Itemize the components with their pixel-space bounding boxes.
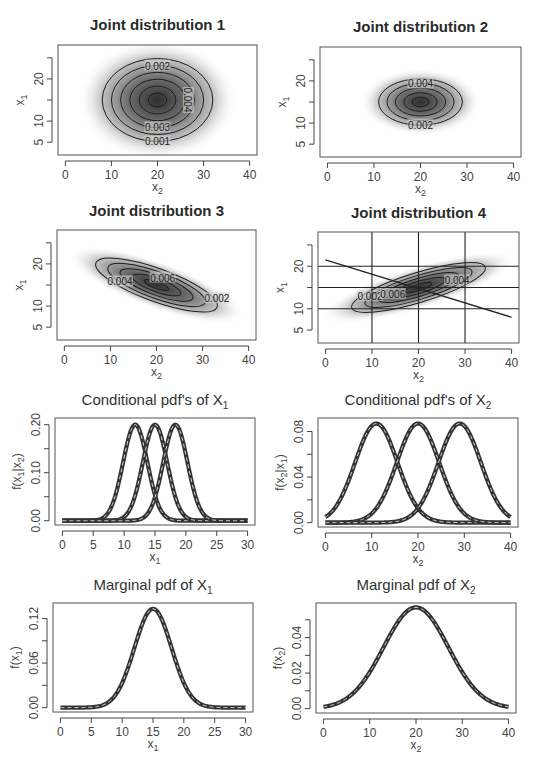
x-tick-label: 40 (502, 726, 516, 740)
y-axis-label: x1 (13, 94, 29, 105)
x-tick-label: 10 (365, 356, 379, 370)
x-tick-label: 0 (322, 540, 329, 554)
density-plot-6 (325, 424, 510, 523)
x-axis-label: x1 (147, 737, 158, 753)
x-tick-label: 5 (90, 538, 97, 552)
density-curve (62, 425, 247, 521)
y-tick-label: 20 (292, 259, 306, 273)
x-axis-label: x2 (415, 182, 426, 198)
x-tick-label: 30 (196, 353, 210, 367)
panel-title: Conditional pdf's of X1 (82, 391, 229, 411)
y-tick-label: 10 (32, 114, 46, 128)
y-axis-label: x1 (273, 282, 289, 293)
x-tick-label: 30 (456, 726, 470, 740)
y-tick-label: 0.20 (29, 413, 43, 437)
y-tick-label: 20 (32, 72, 46, 86)
density-curve (62, 425, 247, 521)
contour-label: 0.004 (408, 78, 433, 89)
x-tick-label: 0 (61, 353, 68, 367)
contour-label: 0.002 (204, 293, 229, 304)
joint-distribution-4: 0.0020.0060.004 (315, 232, 521, 343)
y-tick-label: 5 (32, 139, 46, 146)
x-tick-label: 20 (179, 538, 193, 552)
x-tick-label: 10 (104, 353, 118, 367)
x-axis-label: x2 (413, 368, 424, 384)
y-tick-label: 10 (294, 116, 308, 130)
density-curve (60, 609, 245, 708)
joint-distribution-3: 0.0020.0060.004 (60, 230, 252, 339)
x-tick-label: 30 (458, 540, 472, 554)
joint-distribution-2: 0.0040.002 (360, 68, 481, 135)
density-curve (62, 425, 247, 521)
x-tick-label: 0 (62, 168, 69, 182)
y-tick-label: 0.00 (29, 509, 43, 533)
x-tick-label: 30 (239, 725, 253, 739)
y-tick-label: 0.00 (27, 696, 41, 720)
contour-label: 0.003 (145, 122, 170, 133)
density-shading (60, 230, 252, 339)
x-tick-label: 20 (177, 725, 191, 739)
figure-canvas: 0.0020.0040.0030.00101020304051020Joint … (0, 0, 541, 765)
y-tick-label: 0.04 (292, 465, 306, 489)
density-curve-dashed (323, 607, 508, 706)
y-tick-label: 5 (292, 326, 306, 333)
density-curve-dashed (62, 425, 247, 521)
panel-7-axes: 0510152025300.000.060.12 (27, 603, 253, 739)
x-axis-label: x2 (151, 365, 162, 381)
y-tick-label: 0.00 (290, 697, 304, 721)
contour-label: 0.004 (445, 275, 470, 286)
panel-title: Marginal pdf of X1 (94, 576, 213, 596)
x-tick-label: 30 (458, 356, 472, 370)
contour-label: 0.006 (380, 289, 405, 300)
x-tick-label: 25 (208, 725, 222, 739)
y-tick-label: 0.00 (292, 511, 306, 535)
x-tick-label: 0 (59, 538, 66, 552)
density-curve (323, 607, 508, 706)
x-tick-label: 25 (210, 538, 224, 552)
density-curve-dashed (62, 425, 247, 521)
x-axis-label: x2 (152, 180, 163, 196)
y-tick-label: 0.10 (29, 461, 43, 485)
panel-title: Joint distribution 2 (353, 18, 488, 35)
y-tick-label: 5 (294, 141, 308, 148)
y-tick-label: 0.08 (292, 419, 306, 443)
plot-frame (53, 603, 253, 712)
x-axis-label: x1 (149, 550, 160, 566)
y-axis-label: f(x1|x2) (10, 453, 26, 490)
panel-title: Conditional pdf's of X2 (345, 391, 492, 411)
y-axis-label: f(x2) (271, 647, 287, 669)
y-axis-label: x1 (12, 279, 28, 290)
contour-label: 0.004 (182, 87, 193, 112)
x-tick-label: 10 (105, 168, 119, 182)
y-axis-label: f(x1) (8, 646, 24, 668)
y-tick-label: 0.06 (27, 651, 41, 675)
y-tick-label: 10 (292, 302, 306, 316)
density-curve-dashed (60, 609, 245, 708)
x-tick-label: 10 (117, 538, 131, 552)
y-tick-label: 0.02 (290, 661, 304, 685)
x-tick-label: 5 (88, 725, 95, 739)
y-tick-label: 5 (31, 324, 45, 331)
contour-label: 0.002 (145, 61, 170, 72)
density-plot-8 (323, 607, 508, 706)
y-tick-label: 20 (31, 257, 45, 271)
x-tick-label: 30 (460, 170, 474, 184)
panel-title: Joint distribution 3 (89, 202, 224, 219)
x-tick-label: 40 (507, 170, 521, 184)
contour-label: 0.002 (408, 120, 433, 131)
x-tick-label: 0 (322, 356, 329, 370)
y-axis-label: x1 (275, 96, 291, 107)
contour-label: 0.004 (108, 276, 133, 287)
y-tick-label: 20 (294, 74, 308, 88)
x-tick-label: 10 (115, 725, 129, 739)
x-tick-label: 30 (197, 168, 211, 182)
contour-label: 0.002 (358, 291, 383, 302)
panel-title: Joint distribution 4 (351, 204, 487, 221)
x-tick-label: 10 (367, 170, 381, 184)
contour-label: 0.006 (150, 273, 175, 284)
density-plot-5 (62, 425, 247, 521)
x-tick-label: 30 (241, 538, 255, 552)
density-curve-dashed (62, 425, 247, 521)
x-tick-label: 40 (242, 353, 256, 367)
x-axis-label: x2 (412, 552, 423, 568)
